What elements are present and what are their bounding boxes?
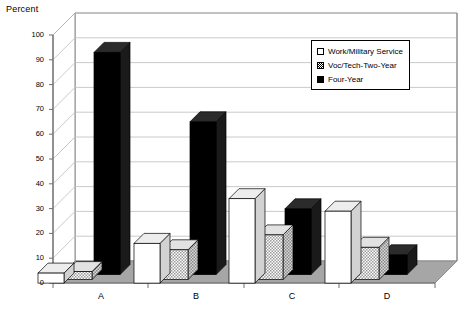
x-tick-label-b: B [176,291,216,301]
legend-label-four-year: Four-Year [328,75,363,84]
y-tick-label-80: 80 [20,81,44,89]
plot-area: 100 90 80 70 60 50 40 30 20 10 0 A B C D… [0,0,463,317]
legend-swatch-black-square [317,76,324,83]
chart-container: Percent [0,0,463,317]
y-tick-label-10: 10 [20,254,44,262]
legend-swatch-dotted-square [317,62,324,69]
x-tick-label-d: D [367,291,407,301]
y-tick-label-60: 60 [20,130,44,138]
legend-swatch-white-square [317,48,324,55]
y-tick-label-20: 20 [20,229,44,237]
legend-item-voc-tech: Voc/Tech-Two-Year [317,59,403,71]
bar-a-four-year [94,42,130,274]
legend-label-voc-tech: Voc/Tech-Two-Year [328,61,397,70]
x-tick-label-c: C [272,291,312,301]
bar-b-work-military [134,233,170,283]
y-tick-label-30: 30 [20,205,44,213]
x-axis-line [53,283,435,288]
legend-item-work-military: Work/Military Service [317,45,403,57]
y-tick-label-90: 90 [20,56,44,64]
bar-d-work-military [325,201,361,283]
y-tick-label-100: 100 [20,31,44,39]
y-tick-label-40: 40 [20,180,44,188]
y-tick-label-70: 70 [20,105,44,113]
legend-label-work-military: Work/Military Service [328,47,403,56]
bar-c-work-military [229,189,265,283]
chart-legend: Work/Military Service Voc/Tech-Two-Year … [311,40,410,90]
y-tick-label-50: 50 [20,155,44,163]
y-tick-label-0: 0 [20,279,44,287]
x-tick-label-a: A [81,291,121,301]
legend-item-four-year: Four-Year [317,73,403,85]
